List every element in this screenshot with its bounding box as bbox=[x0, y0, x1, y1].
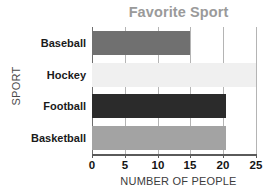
x-tick-label-20: 20 bbox=[208, 158, 238, 172]
y-tick-label-basketball: Basketball bbox=[4, 132, 90, 144]
x-tick-label-0: 0 bbox=[77, 158, 107, 172]
y-tick-label-football: Football bbox=[4, 100, 90, 112]
x-tick-label-10: 10 bbox=[143, 158, 173, 172]
x-tick-label-5: 5 bbox=[110, 158, 140, 172]
bar-chart: Favorite Sport SPORT BasketballFootballH… bbox=[0, 0, 271, 193]
x-axis-line bbox=[92, 154, 256, 156]
x-tick-label-25: 25 bbox=[241, 158, 271, 172]
gridline bbox=[256, 27, 257, 154]
x-tick-label-15: 15 bbox=[175, 158, 205, 172]
y-tick-label-baseball: Baseball bbox=[4, 37, 90, 49]
bar-baseball bbox=[92, 31, 190, 55]
plot-area bbox=[92, 27, 256, 154]
chart-title: Favorite Sport bbox=[86, 3, 271, 21]
bar-football bbox=[92, 94, 226, 118]
bar-basketball bbox=[92, 126, 226, 150]
x-axis-title: NUMBER OF PEOPLE bbox=[86, 174, 271, 188]
bar-hockey bbox=[92, 63, 256, 87]
y-tick-label-hockey: Hockey bbox=[4, 69, 90, 81]
